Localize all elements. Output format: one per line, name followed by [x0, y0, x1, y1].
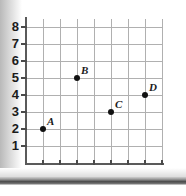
y-axis-tick-label: 2: [4, 122, 19, 135]
gridline-horizontal: [26, 61, 163, 62]
y-axis-tick: [21, 60, 27, 62]
x-axis-tick: [59, 160, 61, 165]
data-point-label: B: [81, 65, 88, 76]
gridline-horizontal: [26, 78, 163, 79]
x-axis-tick: [161, 160, 163, 165]
plot-area: ABCD: [26, 19, 163, 164]
y-axis-tick-label: 8: [4, 20, 19, 33]
gridline-horizontal: [26, 129, 163, 130]
gridline-vertical: [77, 19, 78, 164]
gridline-horizontal: [26, 146, 163, 147]
x-axis-tick-label: 3: [69, 168, 85, 181]
y-axis-tick-label: 1: [4, 139, 19, 152]
x-axis-tick-label: 2: [52, 168, 68, 181]
x-axis-tick: [93, 160, 95, 165]
y-axis-tick-label: 5: [4, 71, 19, 84]
data-point: [108, 109, 114, 115]
gridline-vertical: [94, 19, 95, 164]
gridline-horizontal: [26, 44, 163, 45]
data-point: [142, 92, 148, 98]
x-axis-tick-label: 7: [137, 168, 153, 181]
gridline-vertical: [128, 19, 129, 164]
x-axis-tick-label: 4: [86, 168, 102, 181]
y-axis-tick: [21, 26, 27, 28]
y-axis-line-lower: [25, 145, 27, 165]
gridline-horizontal: [26, 27, 163, 28]
scatter-plot-figure: ABCD 12345678 12345678: [0, 0, 186, 196]
data-point: [40, 126, 46, 132]
x-axis-tick: [110, 160, 112, 165]
y-axis-tick-label: 6: [4, 54, 19, 67]
x-axis-tick: [127, 160, 129, 165]
x-axis-tick: [144, 160, 146, 165]
y-axis-tick-label: 7: [4, 37, 19, 50]
gridline-vertical: [60, 19, 61, 164]
x-axis-tick: [76, 160, 78, 165]
y-axis-tick-label: 4: [4, 88, 19, 101]
gridline-vertical: [111, 19, 112, 164]
gridline-vertical: [43, 19, 44, 164]
x-axis-tick-label: 6: [120, 168, 136, 181]
x-axis-tick-label: 5: [103, 168, 119, 181]
y-axis-tick: [21, 77, 27, 79]
gridline-vertical: [162, 19, 163, 164]
y-axis-tick: [21, 111, 27, 113]
x-axis-tick-label: 1: [35, 168, 51, 181]
y-axis-tick: [21, 128, 27, 130]
y-axis-tick: [21, 145, 27, 147]
data-point-label: C: [115, 99, 122, 110]
data-point-label: D: [149, 82, 157, 93]
y-axis-tick: [21, 94, 27, 96]
data-point: [74, 75, 80, 81]
y-axis-tick-label: 3: [4, 105, 19, 118]
data-point-label: A: [47, 116, 54, 127]
y-axis-tick: [21, 43, 27, 45]
gridline-horizontal: [26, 112, 163, 113]
x-axis-tick-label: 8: [154, 168, 170, 181]
x-axis-tick: [42, 160, 44, 165]
